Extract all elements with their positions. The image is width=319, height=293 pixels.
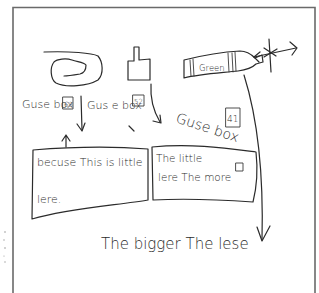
bottle-label: Green	[199, 63, 225, 73]
measurement-arrow-icon	[254, 39, 297, 72]
conclusion-text: The bigger The lese	[101, 235, 249, 253]
sketch-page: Green Guse box 63 Gus e box 52 Guse box …	[0, 0, 319, 293]
arrow-up-small	[62, 135, 70, 147]
guess-value-3: 41	[227, 114, 238, 124]
guess-value-1: 63	[64, 101, 73, 109]
note-left-line2: lere.	[37, 193, 61, 206]
note-right-line1: The little	[156, 152, 202, 164]
object-bottle-icon: Green	[184, 51, 263, 78]
guess-label-3: Guse box 41	[174, 108, 241, 145]
guess-value-2: 52	[134, 98, 143, 106]
object-tab-square-icon	[128, 47, 150, 80]
guess-label-2: Gus e box 52	[87, 95, 144, 112]
note-left-line1: becuse This is little	[37, 156, 143, 169]
note-right-line2: lere The more	[158, 171, 231, 183]
arrow-down-left	[77, 96, 85, 131]
guess-label-1: Guse box 63	[22, 97, 73, 111]
margin-marks	[3, 231, 5, 262]
object-loop-icon	[44, 52, 102, 86]
note-box-right: The little lere The more	[152, 146, 257, 202]
sketch-canvas: Green Guse box 63 Gus e box 52 Guse box …	[0, 0, 319, 293]
note-right-checkbox	[236, 163, 243, 171]
note-box-left: becuse This is little lere.	[32, 147, 148, 219]
